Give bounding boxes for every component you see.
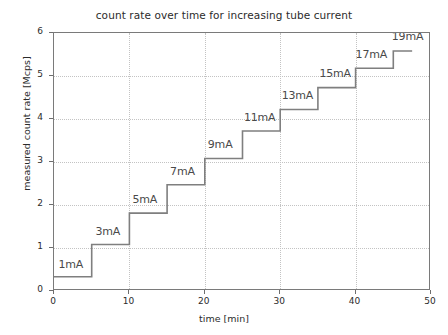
y-axis-tick-label: 0 xyxy=(19,284,43,294)
count-rate-step-line xyxy=(54,51,412,277)
chart-figure: count rate over time for increasing tube… xyxy=(0,0,448,335)
x-axis-tick-mark xyxy=(128,290,129,294)
step-annotation-9ma: 9mA xyxy=(208,138,233,151)
x-axis-tick-label: 0 xyxy=(38,296,68,306)
step-annotation-15ma: 15mA xyxy=(319,67,350,80)
step-annotation-1ma: 1mA xyxy=(59,258,84,271)
x-axis-tick-mark xyxy=(204,290,205,294)
x-axis-label: time [min] xyxy=(0,313,448,324)
plot-area: 1mA3mA5mA7mA9mA11mA13mA15mA17mA19mA xyxy=(53,32,430,290)
x-axis-tick-label: 40 xyxy=(340,296,370,306)
x-axis-tick-mark xyxy=(279,290,280,294)
step-annotation-19ma: 19mA xyxy=(392,32,423,43)
step-annotation-17ma: 17mA xyxy=(356,48,387,61)
y-axis-tick-label: 6 xyxy=(19,26,43,36)
chart-title: count rate over time for increasing tube… xyxy=(0,9,448,21)
y-axis-tick-label: 4 xyxy=(19,112,43,122)
step-annotation-7ma: 7mA xyxy=(170,165,195,178)
data-series-layer xyxy=(54,33,430,290)
step-annotation-5ma: 5mA xyxy=(132,193,157,206)
step-annotation-11ma: 11mA xyxy=(244,111,275,124)
x-axis-tick-label: 30 xyxy=(264,296,294,306)
x-axis-tick-mark xyxy=(53,290,54,294)
x-axis-tick-label: 50 xyxy=(415,296,445,306)
step-annotation-13ma: 13mA xyxy=(282,89,313,102)
x-axis-tick-label: 10 xyxy=(113,296,143,306)
y-axis-tick-label: 2 xyxy=(19,198,43,208)
step-annotation-3ma: 3mA xyxy=(95,225,120,238)
x-axis-tick-mark xyxy=(355,290,356,294)
x-axis-tick-mark xyxy=(430,290,431,294)
y-axis-tick-label: 5 xyxy=(19,69,43,79)
y-axis-tick-label: 1 xyxy=(19,241,43,251)
y-axis-tick-label: 3 xyxy=(19,155,43,165)
x-axis-tick-label: 20 xyxy=(189,296,219,306)
